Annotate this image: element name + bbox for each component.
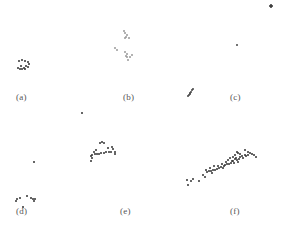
data-point	[28, 63, 30, 65]
data-point	[100, 152, 102, 154]
data-point	[19, 68, 21, 70]
data-point	[227, 159, 229, 161]
data-point	[189, 93, 191, 95]
data-point	[242, 157, 244, 159]
data-point	[229, 157, 231, 159]
data-points-layer	[0, 0, 285, 238]
data-point	[15, 200, 17, 202]
data-point	[17, 67, 19, 69]
data-point	[24, 60, 26, 62]
data-point	[222, 167, 224, 169]
data-point	[190, 180, 192, 182]
data-point	[103, 152, 105, 154]
data-point	[94, 153, 96, 155]
data-point	[211, 172, 213, 174]
data-point	[247, 151, 249, 153]
data-point	[205, 169, 207, 171]
data-point	[107, 147, 109, 149]
data-point	[33, 161, 35, 163]
data-point	[129, 56, 131, 58]
data-point	[33, 200, 35, 202]
data-point	[247, 154, 249, 156]
data-point	[103, 142, 105, 144]
data-point	[239, 153, 241, 155]
data-point	[221, 163, 223, 165]
data-point	[95, 149, 97, 151]
data-point	[209, 167, 211, 169]
data-point	[124, 37, 126, 39]
data-point	[98, 153, 100, 155]
data-point	[187, 95, 189, 97]
data-point	[81, 112, 83, 114]
data-point	[91, 157, 93, 159]
data-point	[116, 49, 118, 51]
scatter-figure: (a) (b) (c) (d) (e) (f)	[0, 0, 285, 238]
data-point	[187, 184, 189, 186]
data-point	[112, 148, 114, 150]
data-point	[237, 161, 239, 163]
data-point	[204, 176, 206, 178]
data-point	[213, 165, 215, 167]
data-point	[198, 180, 200, 182]
data-point	[186, 179, 188, 181]
data-point	[27, 66, 29, 68]
data-point	[233, 162, 235, 164]
data-point	[26, 195, 28, 197]
data-point	[255, 156, 257, 158]
data-point	[131, 54, 133, 56]
data-point	[232, 156, 234, 158]
data-point	[127, 59, 129, 61]
data-point	[34, 198, 36, 200]
data-point	[225, 161, 227, 163]
data-point	[20, 65, 22, 67]
corner-mark	[270, 4, 272, 6]
data-point	[93, 151, 95, 153]
data-point	[23, 67, 25, 69]
data-point	[244, 149, 246, 151]
data-point	[125, 55, 127, 57]
data-point	[110, 151, 112, 153]
data-point	[114, 153, 116, 155]
data-point	[236, 44, 238, 46]
data-point	[192, 178, 194, 180]
data-point	[21, 59, 23, 61]
data-point	[108, 151, 110, 153]
data-point	[238, 158, 240, 160]
data-point	[128, 37, 130, 39]
data-point	[234, 154, 236, 156]
data-point	[105, 151, 107, 153]
data-point	[192, 88, 194, 90]
data-point	[25, 65, 27, 67]
data-point	[90, 160, 92, 162]
data-point	[19, 197, 21, 199]
data-point	[217, 165, 219, 167]
data-point	[230, 162, 232, 164]
data-point	[96, 153, 98, 155]
data-point	[18, 60, 20, 62]
data-point	[22, 206, 24, 208]
data-point	[236, 151, 238, 153]
